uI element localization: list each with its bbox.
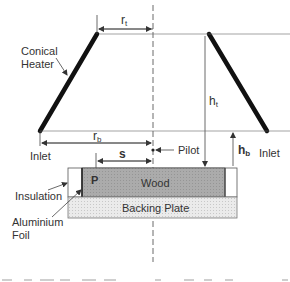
insulation-label: Insulation bbox=[15, 190, 62, 202]
conical-heater-label: Conical Heater bbox=[21, 45, 61, 70]
insulation-pointer bbox=[48, 183, 67, 190]
inlet-left-label: Inlet bbox=[30, 150, 51, 162]
h-t-label: ht bbox=[209, 94, 219, 109]
p-label: P bbox=[91, 174, 98, 186]
pilot-marker bbox=[151, 148, 154, 151]
conical-heater-right bbox=[209, 34, 267, 131]
wood-label: Wood bbox=[141, 177, 170, 189]
conical-heater-pointer bbox=[56, 58, 67, 75]
inlet-right-label: Inlet bbox=[259, 147, 280, 159]
conical-heater-diagram: rt ht hb rb s Pilot Inlet Inlet Conical … bbox=[0, 0, 290, 282]
s-label: s bbox=[119, 147, 126, 161]
backing-plate-label: Backing Plate bbox=[122, 202, 189, 214]
pilot-label: Pilot bbox=[178, 144, 199, 156]
r-t-label: rt bbox=[121, 13, 128, 28]
aluminium-foil-label: Aluminium Foil bbox=[12, 216, 66, 241]
h-b-label: hb bbox=[238, 143, 250, 158]
cut-off-caption bbox=[2, 279, 288, 281]
